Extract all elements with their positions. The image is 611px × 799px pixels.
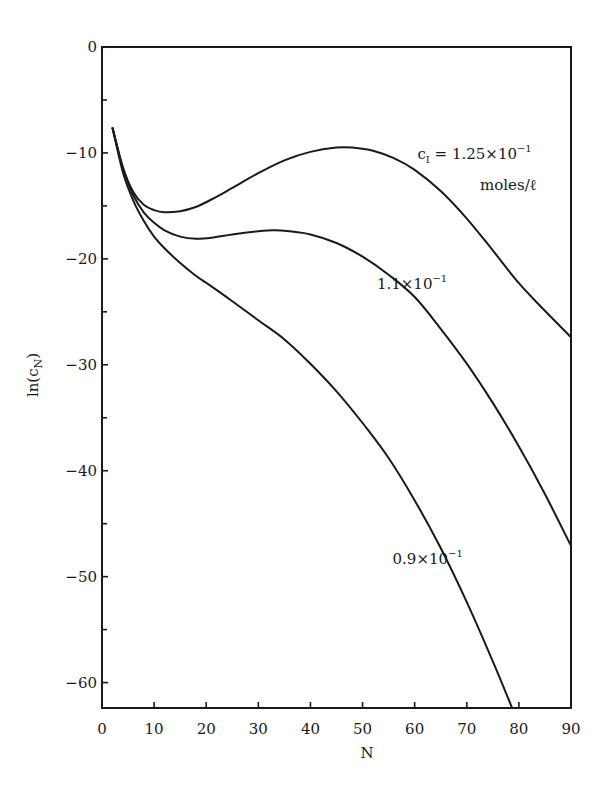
y-tick-label: −20 <box>65 250 97 268</box>
y-tick-label: −40 <box>65 462 97 480</box>
x-tick-label: 90 <box>561 720 580 738</box>
x-tick-label: 70 <box>457 720 476 738</box>
data-series <box>112 128 571 709</box>
y-tick-label: −10 <box>65 144 97 162</box>
y-tick-label: −50 <box>65 568 97 586</box>
y-tick-label: −30 <box>65 356 97 374</box>
annotation-0: cI = 1.25×10−1 <box>417 143 531 165</box>
x-tick-label: 10 <box>145 720 164 738</box>
series-line-2 <box>112 128 512 709</box>
annotation-3: 0.9×10−1 <box>393 548 463 568</box>
x-tick-label: 20 <box>197 720 216 738</box>
annotation-2: 1.1×10−1 <box>377 273 447 293</box>
chart: 0102030405060708090 0−10−20−30−40−50−60 … <box>0 0 611 799</box>
x-tick-label: 60 <box>405 720 424 738</box>
y-tick-label: −60 <box>65 674 97 692</box>
x-tick-label: 0 <box>97 720 107 738</box>
x-tick-label: 30 <box>249 720 268 738</box>
x-axis-title: N <box>360 744 373 762</box>
y-axis-title: ln(cN) <box>24 353 45 397</box>
y-tick-label: 0 <box>87 38 97 56</box>
x-tick-label: 50 <box>353 720 372 738</box>
x-tick-label: 80 <box>509 720 528 738</box>
x-tick-label: 40 <box>301 720 320 738</box>
annotation-1: moles/ℓ <box>480 176 537 194</box>
